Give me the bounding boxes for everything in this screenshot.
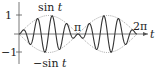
sin-t-label: sin t [38, 2, 62, 13]
plot [0, 0, 157, 71]
y-label-1: 1 [5, 10, 12, 21]
neg-sin-t-label: −sin t [33, 58, 66, 69]
pi-label: π [74, 22, 81, 33]
two-pi-label: 2π [133, 21, 147, 32]
t-axis-label: t [150, 29, 154, 40]
y-label-neg1: −1 [1, 47, 17, 58]
